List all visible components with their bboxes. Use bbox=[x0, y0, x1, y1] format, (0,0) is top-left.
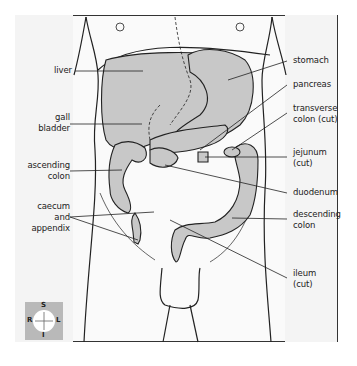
label-liver: liver bbox=[30, 65, 72, 76]
label-ascending-colon: ascending colon bbox=[15, 160, 70, 182]
transverse-colon-cut bbox=[224, 147, 240, 157]
label-line: colon (cut) bbox=[293, 114, 337, 125]
label-line: appendix bbox=[15, 223, 70, 234]
compass-superior: S bbox=[41, 301, 46, 309]
label-caecum-appendix: caecum and appendix bbox=[15, 201, 70, 234]
compass-inferior: I bbox=[42, 331, 45, 339]
ascending-colon-shape bbox=[109, 142, 146, 213]
label-ileum: ileum (cut) bbox=[293, 268, 316, 290]
orientation-compass: S I R L bbox=[25, 302, 63, 340]
body-outline-right-side bbox=[84, 17, 98, 342]
label-pancreas: pancreas bbox=[293, 79, 331, 90]
label-line: and bbox=[15, 212, 70, 223]
compass-left: L bbox=[56, 316, 60, 324]
label-line: transverse bbox=[293, 103, 337, 114]
label-descending-colon: descending colon bbox=[293, 209, 341, 231]
leader-appendix bbox=[70, 217, 138, 240]
label-line: descending bbox=[293, 209, 341, 220]
label-line: colon bbox=[293, 220, 341, 231]
label-line: ileum bbox=[293, 268, 316, 279]
label-line: jejunum bbox=[293, 147, 327, 158]
label-stomach: stomach bbox=[293, 55, 329, 66]
label-duodenum: duodenum bbox=[293, 187, 338, 198]
label-jejunum: jejunum (cut) bbox=[293, 147, 327, 169]
label-line: ascending bbox=[15, 160, 70, 171]
label-gall-bladder: gall bladder bbox=[25, 112, 70, 134]
compass-right: R bbox=[27, 316, 32, 324]
label-line: (cut) bbox=[293, 279, 316, 290]
label-line: bladder bbox=[25, 123, 70, 134]
leader-duodenum bbox=[165, 165, 287, 193]
descending-colon-shape bbox=[171, 144, 258, 262]
label-transverse-colon: transverse colon (cut) bbox=[293, 103, 337, 125]
label-line: colon bbox=[15, 171, 70, 182]
label-line: caecum bbox=[15, 201, 70, 212]
nipple-right bbox=[116, 23, 124, 31]
nipple-left bbox=[236, 23, 244, 31]
body-outline-left-side bbox=[262, 17, 272, 342]
label-line: gall bbox=[25, 112, 70, 123]
label-line: (cut) bbox=[293, 158, 327, 169]
